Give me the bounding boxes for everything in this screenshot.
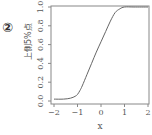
x-tick-label: 0 xyxy=(98,108,103,117)
plot-frame xyxy=(51,6,149,104)
x-tick-label: −2 xyxy=(48,108,60,117)
x-tick-label: 2 xyxy=(145,108,150,117)
y-axis-ticks: 0.00.20.40.60.81.0 xyxy=(36,1,51,108)
y-tick-label: 0.4 xyxy=(36,57,45,70)
x-axis-ticks: −2−1012 xyxy=(48,104,150,117)
y-tick-label: 0.0 xyxy=(36,95,45,108)
x-tick-label: −1 xyxy=(72,108,84,117)
x-axis-label: x xyxy=(97,121,102,131)
y-tick-label: 1.0 xyxy=(36,1,45,14)
data-line xyxy=(54,7,148,99)
y-tick-label: 0.6 xyxy=(36,38,45,51)
line-chart: 0.00.20.40.60.81.0 −2−1012 x xyxy=(0,0,152,135)
y-tick-label: 0.8 xyxy=(36,19,45,32)
y-tick-label: 0.2 xyxy=(36,76,45,89)
x-tick-label: 1 xyxy=(122,108,127,117)
